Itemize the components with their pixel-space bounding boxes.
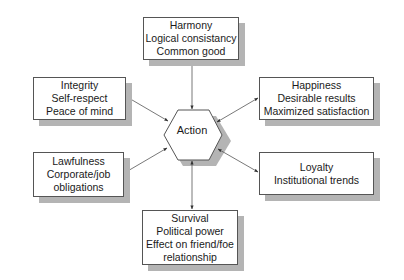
arrow-upper-left [127, 97, 168, 121]
node-line: Happiness [292, 79, 342, 92]
node-line: Common good [157, 45, 226, 58]
node-line: Logical consistancy [145, 32, 236, 45]
node-line: Corporate/job [47, 168, 111, 181]
node-line: relationship [163, 251, 217, 264]
node-line: Desirable results [277, 92, 355, 105]
node-loyalty: Loyalty Institutional trends [259, 152, 374, 195]
arrow-upper-right [217, 98, 258, 122]
node-harmony: Harmony Logical consistancy Common good [143, 17, 239, 60]
arrow-lower-right [218, 149, 258, 172]
node-line: Harmony [170, 19, 213, 32]
node-survival: Survival Political power Effect on frien… [142, 210, 238, 265]
node-happiness: Happiness Desirable results Maximized sa… [259, 77, 374, 120]
node-line: Lawfulness [52, 155, 105, 168]
node-line: Maximized satisfaction [264, 105, 370, 118]
node-line: Effect on friend/foe [146, 238, 234, 251]
arrow-lower-left [126, 148, 167, 172]
node-line: Loyalty [300, 161, 333, 174]
center-action-label: Action [163, 124, 221, 137]
node-integrity: Integrity Self-respect Peace of mind [33, 77, 126, 120]
node-line: Self-respect [51, 92, 107, 105]
node-line: Institutional trends [274, 174, 359, 187]
node-line: Survival [171, 212, 208, 225]
node-line: Peace of mind [46, 105, 113, 118]
node-line: Integrity [61, 79, 98, 92]
node-line: obligations [53, 181, 103, 194]
node-lawfulness: Lawfulness Corporate/job obligations [33, 152, 124, 197]
node-line: Political power [156, 225, 224, 238]
